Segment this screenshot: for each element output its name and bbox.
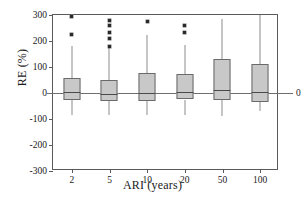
- whisker-upper: [109, 46, 110, 80]
- median-line: [63, 92, 80, 93]
- y-tick-label: -300: [30, 166, 47, 176]
- whisker-lower: [260, 102, 261, 112]
- boxplot-figure: RE (%) ARI (years) 3002001000-100-200-30…: [0, 0, 305, 202]
- outlier-marker: [70, 33, 73, 36]
- box-iqr: [252, 64, 269, 101]
- median-line: [252, 92, 269, 93]
- outlier-marker: [108, 19, 111, 22]
- y-tick-label: -200: [30, 140, 47, 150]
- zero-reference-label: 0: [296, 88, 301, 98]
- median-line: [139, 93, 156, 94]
- outlier-marker: [183, 31, 186, 34]
- whisker-upper: [71, 46, 72, 78]
- median-line: [101, 94, 118, 95]
- box-plot-group: [53, 15, 91, 169]
- x-tick: [260, 169, 261, 173]
- y-tick-label: 300: [33, 10, 47, 20]
- x-tick: [72, 169, 73, 173]
- median-line: [214, 90, 231, 91]
- box-iqr: [63, 78, 80, 100]
- x-tick: [185, 169, 186, 173]
- box-plot-group: [166, 15, 204, 169]
- y-tick-label: 100: [33, 62, 47, 72]
- outlier-marker: [108, 31, 111, 34]
- whisker-lower: [109, 101, 110, 116]
- box-iqr: [176, 74, 193, 99]
- y-axis-title: RE (%): [15, 28, 30, 108]
- outlier-marker: [70, 15, 73, 18]
- x-tick-label: 5: [107, 175, 112, 185]
- whisker-upper: [260, 15, 261, 64]
- outlier-marker: [108, 24, 111, 27]
- whisker-lower: [222, 100, 223, 116]
- box-plot-group: [91, 15, 129, 169]
- whisker-lower: [184, 100, 185, 116]
- outlier-marker: [146, 20, 149, 23]
- whisker-upper: [222, 19, 223, 59]
- outlier-marker: [108, 37, 111, 40]
- box-plot-group: [204, 15, 242, 169]
- box-plot-group: [128, 15, 166, 169]
- x-tick: [147, 169, 148, 173]
- x-tick-label: 50: [218, 175, 228, 185]
- x-tick: [110, 169, 111, 173]
- whisker-lower: [147, 101, 148, 115]
- outlier-marker: [183, 24, 186, 27]
- plot-area: 3002001000-100-200-300 25102050100 0: [52, 14, 278, 170]
- median-line: [176, 92, 193, 93]
- box-iqr: [214, 59, 231, 100]
- box-plot-group: [241, 15, 279, 169]
- y-tick: [49, 171, 53, 172]
- x-tick-label: 10: [142, 175, 152, 185]
- y-tick-label: 200: [33, 36, 47, 46]
- box-iqr: [139, 73, 156, 101]
- whisker-upper: [147, 35, 148, 73]
- whisker-upper: [184, 45, 185, 74]
- box-iqr: [101, 80, 118, 101]
- y-tick-label: -100: [30, 114, 47, 124]
- x-tick-label: 2: [69, 175, 74, 185]
- outlier-marker: [108, 45, 111, 48]
- x-tick-label: 100: [253, 175, 267, 185]
- x-tick-label: 20: [180, 175, 190, 185]
- whisker-lower: [71, 100, 72, 115]
- x-tick: [223, 169, 224, 173]
